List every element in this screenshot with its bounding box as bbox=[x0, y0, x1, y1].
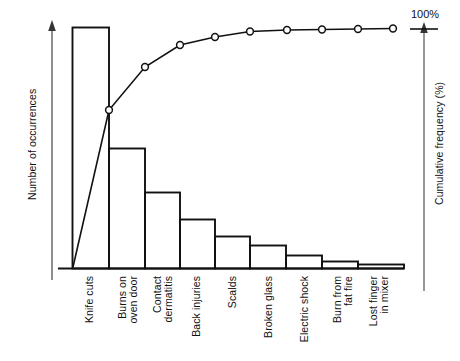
cumulative-marker-4 bbox=[212, 34, 219, 41]
category-label-contact-dermatitis-line2: dermatitis bbox=[162, 276, 174, 323]
bar-electric-shock bbox=[286, 256, 322, 269]
bar-burns-on-oven-door bbox=[109, 149, 145, 269]
left-axis-arrowhead bbox=[48, 20, 56, 31]
cumulative-marker-5 bbox=[247, 28, 254, 35]
category-label-electric-shock: Electric shock bbox=[298, 275, 310, 342]
y2-axis-100-percent-label: 100% bbox=[411, 8, 439, 20]
bar-contact-dermatitis bbox=[145, 193, 180, 269]
chart-canvas: Number of occurrences Cumulative frequen… bbox=[0, 0, 460, 361]
right-axis-arrowhead bbox=[420, 22, 428, 33]
category-label-burn-from-fat-fire-line2: fat fire bbox=[342, 276, 354, 306]
cumulative-marker-6 bbox=[284, 27, 291, 34]
cumulative-marker-3 bbox=[177, 42, 184, 49]
bar-broken-glass bbox=[250, 246, 286, 269]
category-label-lost-finger-in-mixer-line2: in mixer bbox=[378, 276, 390, 314]
category-label-scalds: Scalds bbox=[226, 276, 238, 308]
cumulative-marker-2 bbox=[142, 64, 149, 71]
y2-axis-title: Cumulative frequency (%) bbox=[433, 82, 445, 205]
cumulative-marker-1 bbox=[106, 107, 113, 114]
bar-scalds bbox=[215, 237, 250, 269]
category-label-broken-glass: Broken glass bbox=[262, 276, 274, 338]
bar-knife-cuts bbox=[73, 28, 110, 269]
category-label-knife-cuts: Knife cuts bbox=[83, 276, 95, 323]
cumulative-marker-group bbox=[106, 25, 397, 113]
bar-burn-from-fat-fire bbox=[322, 262, 358, 269]
left-axis bbox=[48, 20, 56, 280]
bar-lost-finger-in-mixer bbox=[358, 265, 404, 269]
bar-group bbox=[73, 28, 405, 269]
pareto-chart: Number of occurrences Cumulative frequen… bbox=[0, 0, 460, 361]
cumulative-marker-9 bbox=[390, 25, 397, 32]
cumulative-marker-7 bbox=[319, 26, 326, 33]
cumulative-marker-8 bbox=[355, 26, 362, 33]
category-label-burns-on-oven-door-line2: oven door bbox=[127, 276, 139, 324]
y-axis-title: Number of occurrences bbox=[26, 89, 38, 200]
bar-back-injuries bbox=[180, 220, 215, 269]
category-label-group: Knife cuts Burns on oven door Contact de… bbox=[83, 275, 390, 342]
category-label-back-injuries: Back injuries bbox=[190, 276, 202, 337]
